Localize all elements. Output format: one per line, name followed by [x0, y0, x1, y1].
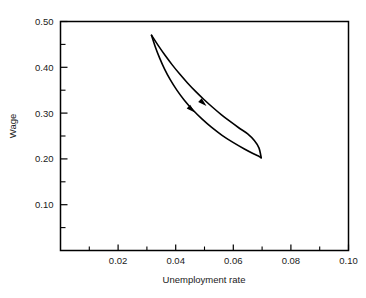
- x-axis-tick-labels: 0.020.040.060.080.10: [109, 255, 358, 266]
- curve-lower-branch: [152, 35, 262, 158]
- y-tick-label-0: 0.10: [35, 199, 54, 210]
- chart-figure: 0.020.040.060.080.10 0.100.200.300.400.5…: [0, 0, 366, 298]
- x-axis-major-ticks: [118, 245, 348, 251]
- phillips-curve-plot: 0.020.040.060.080.10 0.100.200.300.400.5…: [0, 0, 366, 298]
- x-tick-label-1: 0.04: [166, 255, 185, 266]
- y-tick-label-2: 0.30: [35, 108, 54, 119]
- y-tick-label-3: 0.40: [35, 62, 54, 73]
- y-axis-major-ticks: [61, 22, 68, 205]
- plot-frame: [61, 22, 349, 251]
- y-tick-label-1: 0.20: [35, 153, 54, 164]
- curve-upper-branch: [152, 35, 262, 158]
- x-tick-label-4: 0.10: [339, 255, 358, 266]
- x-tick-label-0: 0.02: [109, 255, 128, 266]
- y-axis-tick-labels: 0.100.200.300.400.50: [35, 16, 54, 210]
- data-curves: [152, 35, 262, 158]
- y-tick-label-4: 0.50: [35, 16, 54, 27]
- x-tick-label-2: 0.06: [224, 255, 243, 266]
- y-axis-title: Wage: [7, 114, 18, 138]
- x-tick-label-3: 0.08: [282, 255, 301, 266]
- x-axis-title: Unemployment rate: [163, 274, 246, 285]
